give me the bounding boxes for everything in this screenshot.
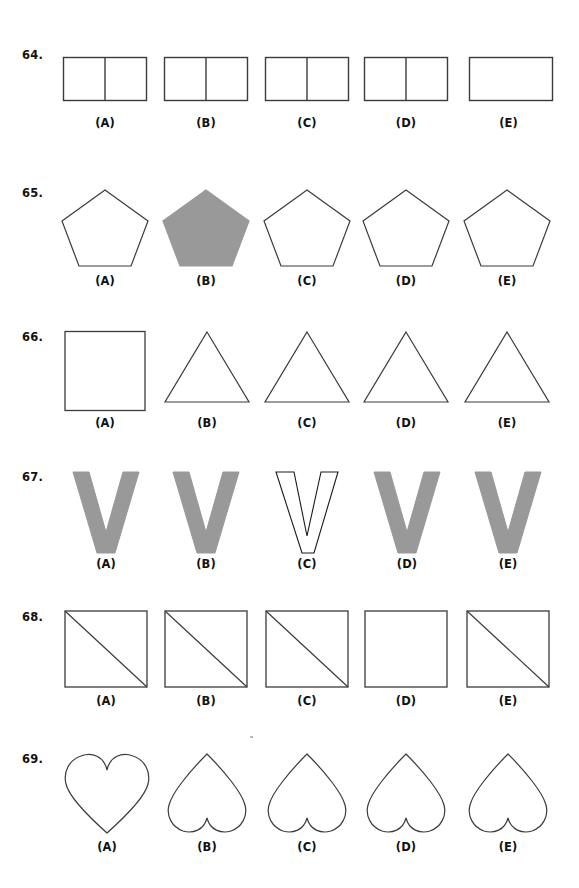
question-number-67: 67. — [22, 470, 43, 484]
option-64-e[interactable]: (E) — [461, 48, 561, 130]
figure-letter-v-filled — [56, 470, 156, 554]
option-64-d[interactable]: (D) — [356, 48, 456, 130]
option-label: (E) — [456, 116, 561, 130]
figure-square-with-diagonal — [156, 608, 256, 688]
option-64-a[interactable]: (A) — [55, 48, 155, 130]
option-label: (A) — [56, 694, 156, 708]
option-65-b[interactable]: (B) — [156, 186, 256, 288]
figure-square — [55, 330, 155, 412]
option-64-c[interactable]: (C) — [257, 48, 357, 130]
option-label: (A) — [56, 557, 156, 571]
figure-pentagon-filled — [156, 186, 256, 270]
figure-heart-inverted — [157, 750, 257, 836]
option-68-b[interactable]: (B) — [156, 608, 256, 708]
figure-pentagon — [457, 186, 557, 270]
option-68-a[interactable]: (A) — [56, 608, 156, 708]
figure-pentagon — [356, 186, 456, 270]
page-speck — [250, 736, 253, 738]
option-69-a[interactable]: (A) — [57, 750, 157, 854]
worksheet-page: 64. (A) (B) — [0, 0, 579, 888]
figure-divided-rectangle — [156, 48, 256, 100]
figure-letter-v-filled — [458, 470, 558, 554]
question-number-64: 64. — [22, 48, 43, 62]
option-label: (B) — [157, 416, 257, 430]
option-label: (C) — [257, 274, 357, 288]
option-66-c[interactable]: (C) — [257, 330, 357, 430]
option-label: (A) — [55, 416, 155, 430]
option-label: (D) — [356, 694, 456, 708]
option-67-d[interactable]: (D) — [357, 470, 457, 571]
option-67-c[interactable]: (C) — [257, 470, 357, 571]
option-65-d[interactable]: (D) — [356, 186, 456, 288]
option-67-b[interactable]: (B) — [156, 470, 256, 571]
option-65-e[interactable]: (E) — [457, 186, 557, 288]
option-69-b[interactable]: (B) — [157, 750, 257, 854]
option-69-c[interactable]: (C) — [257, 750, 357, 854]
figure-letter-v-filled — [156, 470, 256, 554]
option-label: (B) — [156, 116, 256, 130]
figure-pentagon — [55, 186, 155, 270]
figure-divided-rectangle — [356, 48, 456, 100]
option-label: (A) — [55, 116, 155, 130]
option-label: (C) — [257, 116, 357, 130]
question-number-66: 66. — [22, 330, 43, 344]
option-label: (E) — [458, 557, 558, 571]
figure-triangle — [457, 330, 557, 412]
question-number-68: 68. — [22, 610, 43, 624]
figure-triangle — [356, 330, 456, 412]
option-label: (B) — [157, 840, 257, 854]
option-label: (D) — [356, 416, 456, 430]
option-label: (C) — [257, 416, 357, 430]
option-label: (C) — [257, 840, 357, 854]
option-68-d[interactable]: (D) — [356, 608, 456, 708]
option-label: (D) — [356, 840, 456, 854]
option-label: (C) — [257, 694, 357, 708]
option-label: (B) — [156, 694, 256, 708]
option-label: (E) — [458, 840, 558, 854]
figure-square-with-diagonal — [56, 608, 156, 688]
option-label: (D) — [356, 274, 456, 288]
option-label: (B) — [156, 557, 256, 571]
figure-pentagon — [257, 186, 357, 270]
option-68-c[interactable]: (C) — [257, 608, 357, 708]
option-label: (D) — [357, 557, 457, 571]
question-number-65: 65. — [22, 186, 43, 200]
option-label: (D) — [356, 116, 456, 130]
option-66-e[interactable]: (E) — [457, 330, 557, 430]
figure-heart-inverted — [458, 750, 558, 836]
option-65-c[interactable]: (C) — [257, 186, 357, 288]
option-label: (A) — [57, 840, 157, 854]
figure-square-with-diagonal — [458, 608, 558, 688]
figure-divided-rectangle — [257, 48, 357, 100]
option-67-e[interactable]: (E) — [458, 470, 558, 571]
option-66-b[interactable]: (B) — [157, 330, 257, 430]
option-66-a[interactable]: (A) — [55, 330, 155, 430]
figure-triangle — [157, 330, 257, 412]
option-64-b[interactable]: (B) — [156, 48, 256, 130]
option-label: (C) — [257, 557, 357, 571]
option-68-e[interactable]: (E) — [458, 608, 558, 708]
figure-triangle — [257, 330, 357, 412]
option-67-a[interactable]: (A) — [56, 470, 156, 571]
figure-letter-v-outline — [257, 470, 357, 554]
option-69-d[interactable]: (D) — [356, 750, 456, 854]
question-number-69: 69. — [22, 752, 43, 766]
option-label: (A) — [55, 274, 155, 288]
figure-letter-v-filled — [357, 470, 457, 554]
figure-square-with-diagonal — [257, 608, 357, 688]
option-65-a[interactable]: (A) — [55, 186, 155, 288]
figure-heart-inverted — [356, 750, 456, 836]
figure-heart-upright — [57, 750, 157, 836]
option-label: (E) — [458, 694, 558, 708]
figure-plain-rectangle — [461, 48, 561, 100]
figure-plain-square — [356, 608, 456, 688]
option-69-e[interactable]: (E) — [458, 750, 558, 854]
option-label: (E) — [457, 274, 557, 288]
option-66-d[interactable]: (D) — [356, 330, 456, 430]
option-label: (B) — [156, 274, 256, 288]
figure-divided-rectangle — [55, 48, 155, 100]
figure-heart-inverted — [257, 750, 357, 836]
option-label: (E) — [457, 416, 557, 430]
